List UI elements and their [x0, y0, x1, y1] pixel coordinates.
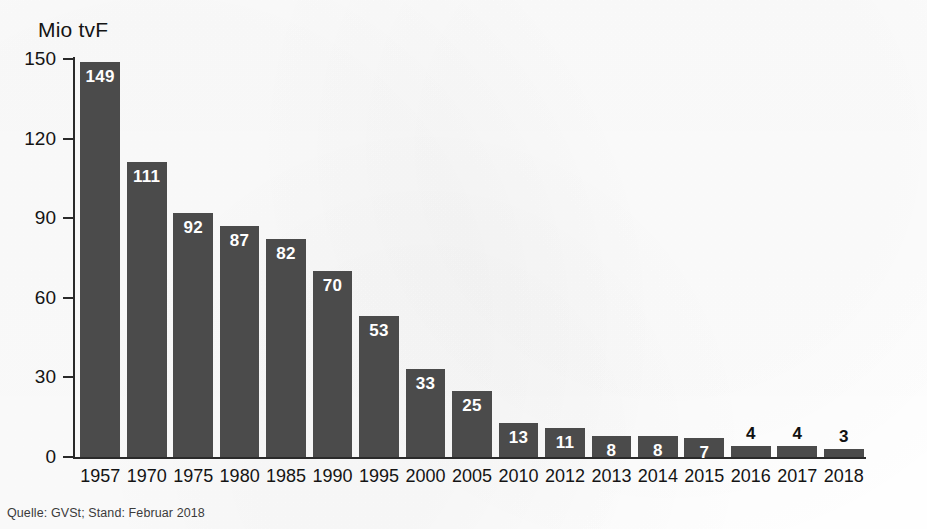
bar-group[interactable]: 7: [684, 59, 724, 457]
bar[interactable]: 13: [499, 423, 539, 457]
x-axis-tick-label: 1970: [123, 466, 169, 487]
bar[interactable]: 33: [406, 369, 446, 457]
y-axis-tick-label: 30: [0, 366, 56, 388]
x-axis-tick-label: 2014: [635, 466, 681, 487]
bar[interactable]: 8: [592, 436, 632, 457]
bar[interactable]: 4: [777, 446, 817, 457]
bar[interactable]: 92: [173, 213, 213, 457]
y-axis-tick-label: 90: [0, 207, 56, 229]
x-axis-line: [73, 457, 866, 459]
y-axis-title: Mio tvF: [38, 18, 108, 42]
bar-group[interactable]: 3: [824, 59, 864, 457]
plot-area: 149111928782705333251311887443: [73, 59, 863, 457]
x-axis-tick-label: 2017: [774, 466, 820, 487]
bar[interactable]: 11: [545, 428, 585, 457]
x-axis-tick-label: 2013: [588, 466, 634, 487]
x-axis-tick-label: 2018: [821, 466, 867, 487]
x-axis-tick-label: 1990: [309, 466, 355, 487]
bar-group[interactable]: 13: [499, 59, 539, 457]
bar[interactable]: 111: [127, 162, 167, 457]
x-axis-tick-label: 2016: [728, 466, 774, 487]
bar[interactable]: 149: [80, 62, 120, 457]
bar-group[interactable]: 8: [592, 59, 632, 457]
x-axis-tick-label: 1995: [356, 466, 402, 487]
bar-group[interactable]: 8: [638, 59, 678, 457]
source-note: Quelle: GVSt; Stand: Februar 2018: [7, 506, 205, 520]
bar-group[interactable]: 149: [80, 59, 120, 457]
bar[interactable]: 3: [824, 449, 864, 457]
bar-value-label: 33: [406, 374, 446, 394]
x-axis-tick-label: 2010: [495, 466, 541, 487]
bar[interactable]: 87: [220, 226, 260, 457]
bar[interactable]: 70: [313, 271, 353, 457]
y-axis-tick-label: 120: [0, 128, 56, 150]
x-axis-tick-label: 1957: [77, 466, 123, 487]
y-axis-tick-label: 150: [0, 48, 56, 70]
x-axis-tick-label: 2000: [402, 466, 448, 487]
x-axis-tick-label: 2015: [681, 466, 727, 487]
bar-value-label: 70: [313, 276, 353, 296]
bar-group[interactable]: 33: [406, 59, 446, 457]
bar-value-label: 8: [592, 441, 632, 461]
bar-value-label: 4: [777, 424, 817, 444]
bar[interactable]: 53: [359, 316, 399, 457]
bar[interactable]: 8: [638, 436, 678, 457]
bar[interactable]: 82: [266, 239, 306, 457]
y-axis-tick-label: 60: [0, 287, 56, 309]
bar-group[interactable]: 92: [173, 59, 213, 457]
bar[interactable]: 7: [684, 438, 724, 457]
bar-value-label: 149: [80, 67, 120, 87]
x-axis-tick-label: 1985: [263, 466, 309, 487]
bar-group[interactable]: 111: [127, 59, 167, 457]
bar-group[interactable]: 4: [777, 59, 817, 457]
bar-value-label: 3: [824, 427, 864, 447]
bar-value-label: 11: [545, 433, 585, 453]
bar-value-label: 82: [266, 244, 306, 264]
bar-value-label: 92: [173, 218, 213, 238]
bar-group[interactable]: 4: [731, 59, 771, 457]
bar-group[interactable]: 82: [266, 59, 306, 457]
bar-value-label: 25: [452, 396, 492, 416]
x-axis-tick-label: 1975: [170, 466, 216, 487]
bar-value-label: 8: [638, 441, 678, 461]
bar-value-label: 13: [499, 428, 539, 448]
bar[interactable]: 25: [452, 391, 492, 457]
x-axis-tick-label: 2005: [449, 466, 495, 487]
bar-value-label: 87: [220, 231, 260, 251]
bar[interactable]: 4: [731, 446, 771, 457]
y-axis-tick-label: 0: [0, 446, 56, 468]
bar-group[interactable]: 25: [452, 59, 492, 457]
x-axis-tick-label: 2012: [542, 466, 588, 487]
bar-value-label: 111: [127, 167, 167, 187]
bar-group[interactable]: 11: [545, 59, 585, 457]
bar-value-label: 7: [684, 443, 724, 463]
bar-chart-figure: Mio tvF 0306090120150 149111928782705333…: [0, 0, 927, 529]
bar-group[interactable]: 87: [220, 59, 260, 457]
bar-value-label: 53: [359, 321, 399, 341]
bar-group[interactable]: 53: [359, 59, 399, 457]
x-axis-tick-label: 1980: [216, 466, 262, 487]
bar-group[interactable]: 70: [313, 59, 353, 457]
bar-value-label: 4: [731, 424, 771, 444]
